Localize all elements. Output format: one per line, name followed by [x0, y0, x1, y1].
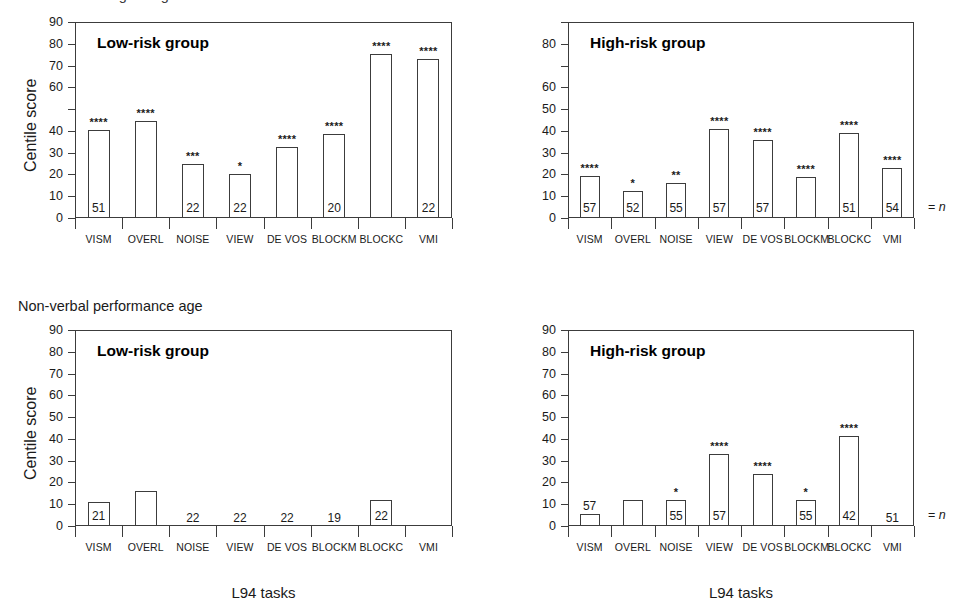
equals-sign: =	[928, 508, 939, 522]
y-axis-tick	[561, 374, 568, 375]
x-axis-category-label: BLOCKM	[784, 541, 827, 553]
y-axis-tick-label: 80	[522, 346, 556, 359]
significance-marker: ****	[828, 423, 871, 434]
significance-marker: ****	[741, 461, 784, 472]
y-axis-tick	[561, 330, 568, 331]
chart-panel-bottom-right: 0102030405060708090VISMOVERLNOISEVIEWDE …	[0, 0, 976, 615]
significance-marker: *	[784, 487, 827, 498]
y-axis-tick	[561, 352, 568, 353]
x-axis-tick	[698, 526, 699, 537]
x-axis-tick	[655, 526, 656, 537]
significance-marker: ****	[698, 441, 741, 452]
x-axis-tick	[871, 526, 872, 537]
x-axis-category-label: BLOCKC	[828, 541, 871, 553]
y-axis-tick-label: 60	[522, 389, 556, 402]
x-axis-tick	[611, 526, 612, 537]
sample-size-label: 57	[698, 510, 741, 522]
sample-size-label: 55	[784, 510, 827, 522]
x-axis-category-label: VMI	[871, 541, 914, 553]
y-axis-tick	[561, 526, 568, 527]
y-axis-tick	[561, 439, 568, 440]
x-axis-tick	[784, 526, 785, 537]
bar	[580, 514, 600, 526]
x-axis-category-label: VISM	[568, 541, 611, 553]
sample-size-label: 57	[568, 500, 611, 512]
sample-size-label: 51	[871, 512, 914, 524]
n-symbol: n	[939, 508, 946, 522]
y-axis-tick	[561, 504, 568, 505]
x-axis-tick	[914, 526, 915, 537]
y-axis-tick-label: 0	[522, 520, 556, 533]
panel-group-title: High-risk group	[590, 342, 705, 360]
x-axis-tick	[568, 526, 569, 537]
y-axis-tick-label: 10	[522, 498, 556, 511]
x-axis-category-label: DE VOS	[741, 541, 784, 553]
x-axis-category-label: NOISE	[655, 541, 698, 553]
y-axis-tick	[561, 461, 568, 462]
y-axis-tick-label: 90	[522, 324, 556, 337]
x-axis-tick	[741, 526, 742, 537]
equals-n-legend: = n	[928, 508, 946, 522]
y-axis-tick	[561, 417, 568, 418]
bar	[623, 500, 643, 526]
y-axis-tick-label: 40	[522, 433, 556, 446]
y-axis-tick	[561, 482, 568, 483]
y-axis-tick-label: 70	[522, 368, 556, 381]
y-axis-tick-label: 20	[522, 476, 556, 489]
bar	[753, 474, 773, 526]
y-axis-tick-label: 50	[522, 411, 556, 424]
significance-marker: *	[655, 487, 698, 498]
x-axis-title: L94 tasks	[568, 584, 914, 601]
sample-size-label: 55	[655, 510, 698, 522]
y-axis-tick-label: 30	[522, 455, 556, 468]
x-axis-category-label: OVERL	[611, 541, 654, 553]
sample-size-label: 42	[828, 510, 871, 522]
x-axis-tick	[828, 526, 829, 537]
x-axis-category-label: VIEW	[698, 541, 741, 553]
y-axis-tick	[561, 395, 568, 396]
